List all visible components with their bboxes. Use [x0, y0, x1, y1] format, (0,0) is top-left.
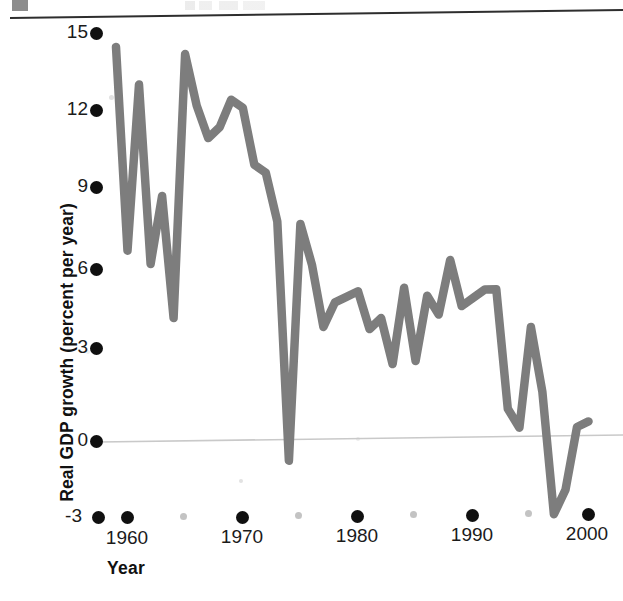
y-tick-dot-15 [90, 27, 103, 40]
gdp-growth-line [116, 47, 589, 514]
x-tick-dot-1990 [466, 509, 479, 522]
y-tick-dot-9 [90, 181, 103, 194]
x-tick-dot-1960 [121, 511, 134, 524]
y-tick-dot-3 [90, 342, 103, 355]
x-tick-label-1970: 1970 [207, 526, 277, 548]
y-tick-dot-6 [90, 263, 103, 276]
x-tick-label-1960: 1960 [92, 527, 162, 549]
y-tick-label-15: 15 [48, 21, 88, 43]
x-tick-label-1980: 1980 [322, 525, 392, 547]
x-minor-tick-dot-1995 [525, 510, 532, 517]
x-minor-tick-dot-1965 [180, 513, 187, 520]
y-tick-dot-12 [90, 104, 103, 117]
y-tick-dot-minus3 [92, 511, 105, 524]
x-tick-label-1990: 1990 [437, 524, 507, 546]
x-tick-dot-1970 [236, 511, 249, 524]
x-tick-dot-1980 [351, 510, 364, 523]
x-minor-tick-dot-1985 [410, 511, 417, 518]
y-tick-label-12: 12 [48, 98, 88, 120]
x-tick-dot-2000 [582, 508, 595, 521]
y-axis-title: Real GDP growth (percent per year) [57, 168, 78, 538]
y-tick-dot-0 [90, 435, 103, 448]
x-tick-label-2000: 2000 [552, 523, 622, 545]
x-axis-title: Year [107, 558, 145, 579]
gdp-growth-figure: 15 12 9 6 3 0 -3 1960 1970 1980 1990 200… [0, 0, 623, 601]
x-minor-tick-dot-1975 [295, 512, 302, 519]
